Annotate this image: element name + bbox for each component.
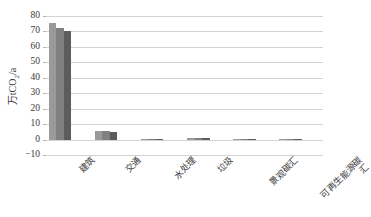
bar xyxy=(156,139,164,140)
bar xyxy=(56,28,64,140)
bar xyxy=(95,131,103,139)
bar xyxy=(279,139,287,140)
gridline xyxy=(46,93,323,94)
y-axis-title-sub: 2 xyxy=(13,75,21,79)
gridline xyxy=(46,16,323,17)
x-tick-label: 建筑 xyxy=(77,155,97,175)
gridline xyxy=(46,124,323,125)
bar xyxy=(49,23,57,140)
bar xyxy=(102,131,110,139)
bar xyxy=(241,139,249,140)
gridline xyxy=(46,109,323,110)
bar xyxy=(294,139,302,140)
plot-area xyxy=(46,16,323,155)
y-axis-title: 万tCO2/a xyxy=(4,42,21,132)
x-tick-label: 垃圾 xyxy=(216,155,236,175)
bar xyxy=(287,139,295,140)
zero-gridline xyxy=(46,140,323,141)
gridline xyxy=(46,31,323,32)
bar xyxy=(141,139,149,140)
y-axis-title-prefix: 万tCO xyxy=(7,79,18,106)
bar xyxy=(148,139,156,140)
y-tick-label: 80 xyxy=(14,10,40,20)
x-tick-label: 交通 xyxy=(123,155,143,175)
y-tick-label: −10 xyxy=(14,149,40,159)
gridline xyxy=(46,62,323,63)
bar xyxy=(202,138,210,139)
y-axis-title-suffix: /a xyxy=(7,68,18,75)
bar xyxy=(110,132,118,140)
x-axis-labels: 建筑交通水处理垃圾景观碳汇可再生能源碳汇 xyxy=(46,155,323,217)
bar xyxy=(187,138,195,139)
gridline xyxy=(46,78,323,79)
bar xyxy=(248,139,256,140)
bar xyxy=(64,31,72,139)
bar xyxy=(195,138,203,139)
y-tick-label: 70 xyxy=(14,25,40,35)
x-tick-label: 水处理 xyxy=(172,155,198,181)
y-tick-label: 0 xyxy=(14,134,40,144)
gridline xyxy=(46,47,323,48)
bar xyxy=(233,139,241,140)
x-tick-label: 景观碳汇 xyxy=(267,155,300,188)
x-tick-label: 可再生能源碳汇 xyxy=(318,155,370,207)
